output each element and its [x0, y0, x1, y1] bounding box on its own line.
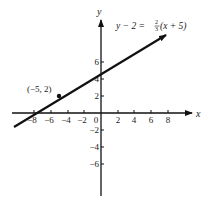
- line-graph: x y −8 −6 −4 −2 0 2 4 6 8 6 4 2 −2 −: [0, 0, 209, 198]
- svg-text:8: 8: [166, 115, 171, 125]
- svg-text:4: 4: [132, 115, 137, 125]
- svg-text:2: 2: [155, 19, 158, 25]
- y-axis-label: y: [96, 6, 102, 17]
- svg-text:0: 0: [94, 115, 99, 125]
- point-label: (−5, 2): [27, 84, 52, 94]
- svg-text:−4: −4: [89, 142, 99, 152]
- svg-text:−2: −2: [77, 115, 87, 125]
- point-marker: [57, 94, 61, 98]
- x-axis-label: x: [195, 108, 201, 119]
- svg-text:2: 2: [116, 115, 121, 125]
- svg-text:6: 6: [149, 115, 154, 125]
- equation-label: y − 2 = 2 3 (x + 5): [115, 19, 186, 32]
- svg-text:6: 6: [95, 57, 100, 67]
- svg-text:2: 2: [95, 91, 100, 101]
- svg-text:−2: −2: [89, 125, 99, 135]
- svg-text:−6: −6: [44, 115, 54, 125]
- svg-text:3: 3: [155, 26, 158, 32]
- svg-text:−6: −6: [89, 159, 99, 169]
- x-tick-labels: −8 −6 −4 −2 0 2 4 6 8: [27, 115, 171, 125]
- svg-text:y − 2 =: y − 2 =: [115, 21, 145, 31]
- svg-text:−4: −4: [61, 115, 71, 125]
- svg-text:(x + 5): (x + 5): [160, 21, 186, 32]
